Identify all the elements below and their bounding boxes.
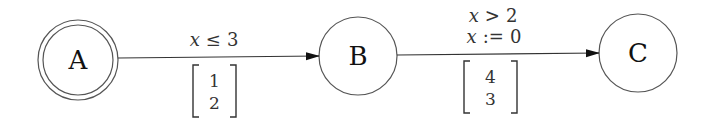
vector-entry-1: 1 (209, 71, 220, 91)
node-b-label: B (348, 41, 367, 71)
right-bracket-icon (511, 61, 517, 113)
edge-a-to-b-guard: x≤3 (190, 29, 239, 50)
left-bracket-icon (464, 61, 470, 113)
node-c-label: C (628, 38, 648, 68)
edge-b-to-c-arrow (397, 53, 599, 55)
edge-b-to-c-vector: 4 3 (464, 61, 517, 113)
node-a: A (38, 20, 118, 100)
vector-entry-2: 2 (209, 93, 220, 113)
edge-a-to-b: x≤3 1 2 (118, 29, 319, 117)
edge-a-to-b-vector: 1 2 (193, 65, 236, 117)
edge-b-to-c-guard: x>2 (469, 5, 518, 26)
node-a-label: A (68, 45, 89, 75)
vector-entry-2: 3 (485, 89, 496, 109)
edge-b-to-c-reset: x:=0 (467, 26, 522, 47)
vector-entry-1: 4 (485, 67, 496, 87)
right-bracket-icon (230, 65, 236, 117)
automaton-diagram: A B C x≤3 1 2 x>2 x:=0 (0, 0, 711, 123)
node-c: C (599, 14, 677, 92)
node-b: B (319, 17, 397, 95)
left-bracket-icon (193, 65, 199, 117)
edge-b-to-c: x>2 x:=0 4 3 (397, 5, 599, 113)
edge-a-to-b-arrow (118, 56, 319, 58)
